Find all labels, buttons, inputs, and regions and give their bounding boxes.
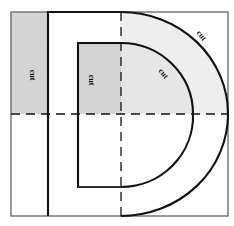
diagram-canvas: cut cut cut cut [0,0,234,226]
cut-label-left-strip: cut [28,70,37,81]
cut-pattern-diagram: cut cut cut cut [0,0,234,226]
inner-shaded-block [78,43,121,114]
cut-label-inner-strip: cut [87,75,96,86]
left-shaded-strip [11,12,48,114]
